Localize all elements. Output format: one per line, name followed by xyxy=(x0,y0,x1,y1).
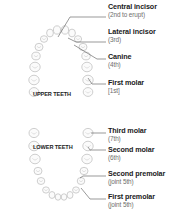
callout-canine: Canine (4th) xyxy=(108,53,131,68)
upper-tooth-first-premolar-left xyxy=(35,43,43,50)
callout-order: (joint 5th) xyxy=(108,202,155,208)
callout-name: First molar xyxy=(108,79,144,86)
lower-tooth-third-molar-left xyxy=(29,128,39,137)
lower-tooth-lateral-incisor-left xyxy=(49,192,55,199)
upper-teeth-label: UPPER TEETH xyxy=(33,91,71,97)
callout-second-premolar: Second premolar (joint 5th) xyxy=(108,170,165,185)
callout-name: Lateral incisor xyxy=(108,28,156,35)
upper-arch xyxy=(29,26,93,97)
callout-name: Central incisor xyxy=(108,3,157,10)
callout-order: (2nd to erupt) xyxy=(108,12,157,18)
lower-tooth-second-premolar-right xyxy=(80,167,88,174)
lower-tooth-canine-right xyxy=(73,187,80,193)
callout-order: (joint 5th) xyxy=(108,179,165,185)
lower-tooth-first-molar-left xyxy=(30,154,40,164)
upper-tooth-second-premolar-right xyxy=(82,52,90,60)
upper-tooth-canine-left xyxy=(40,36,47,43)
upper-tooth-first-molar-right xyxy=(82,62,92,72)
callout-name: Canine xyxy=(108,53,131,60)
upper-tooth-third-molar-right xyxy=(83,88,93,97)
callout-lateral-incisor: Lateral incisor (3rd) xyxy=(108,28,156,43)
callout-first-premolar: First premolar (joint 5th) xyxy=(108,193,155,208)
upper-tooth-lateral-incisor-right xyxy=(69,29,76,37)
upper-tooth-second-premolar-left xyxy=(32,52,40,60)
callout-second-molar: Second molar (6th) xyxy=(108,146,154,161)
callout-name: Third molar xyxy=(108,127,146,134)
lower-tooth-first-molar-right xyxy=(82,154,92,164)
callout-order: (6th) xyxy=(108,155,154,161)
upper-tooth-first-molar-left xyxy=(30,62,40,72)
callout-name: Second premolar xyxy=(108,170,165,177)
lower-tooth-canine-left xyxy=(43,187,50,193)
callout-name: First premolar xyxy=(108,193,155,200)
lower-teeth-label: LOWER TEETH xyxy=(33,144,73,150)
leader-line-lateral-incisor xyxy=(68,38,106,42)
upper-tooth-first-premolar-right xyxy=(79,43,87,50)
callout-order: (7th) xyxy=(108,136,146,142)
upper-tooth-canine-right xyxy=(74,36,81,43)
callout-third-molar: Third molar (7th) xyxy=(108,127,146,142)
callout-first-molar: First molar [1st] xyxy=(108,79,144,94)
lower-tooth-central-incisor-left xyxy=(55,194,61,200)
callout-order: (3rd) xyxy=(108,37,156,43)
callout-central-incisor: Central incisor (2nd to erupt) xyxy=(108,3,157,18)
upper-tooth-lateral-incisor-left xyxy=(47,29,54,37)
lower-arch xyxy=(29,128,93,200)
lower-tooth-lateral-incisor-right xyxy=(67,192,73,199)
upper-tooth-central-incisor-left xyxy=(53,26,60,34)
leader-line-first-premolar xyxy=(81,188,106,199)
callout-order: (4th) xyxy=(108,62,131,68)
lower-tooth-central-incisor-right xyxy=(61,194,67,200)
upper-tooth-second-molar-left xyxy=(29,75,39,85)
lower-tooth-first-premolar-right xyxy=(77,178,85,185)
lower-tooth-second-premolar-left xyxy=(34,167,42,174)
callout-order: [1st] xyxy=(108,88,144,94)
lower-tooth-second-molar-right xyxy=(83,141,93,151)
lower-tooth-first-premolar-left xyxy=(37,178,45,185)
callout-name: Second molar xyxy=(108,146,154,153)
leader-line-second-premolar xyxy=(80,176,106,178)
